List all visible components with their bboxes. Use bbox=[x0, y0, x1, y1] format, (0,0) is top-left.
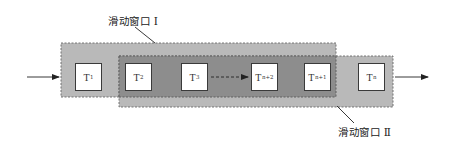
node-t3: T3 bbox=[181, 63, 208, 91]
node-t2-base: T bbox=[133, 72, 139, 83]
node-tn-plus-2: Tn+2 bbox=[251, 63, 278, 91]
window-2-leader-line bbox=[337, 106, 354, 123]
node-t3-base: T bbox=[189, 72, 195, 83]
window-1-label: 滑动窗口 Ⅰ bbox=[108, 13, 159, 28]
node-t2-sub: 2 bbox=[140, 74, 144, 80]
node-tn-plus-1-sub: n+1 bbox=[315, 74, 327, 80]
node-tn-plus-2-base: T bbox=[255, 72, 261, 83]
node-t3-sub: 3 bbox=[196, 74, 200, 80]
window-1-leader-line bbox=[135, 27, 155, 43]
node-t2: T2 bbox=[125, 63, 152, 91]
node-t1-sub: 1 bbox=[90, 74, 94, 80]
node-t1-base: T bbox=[83, 72, 89, 83]
node-tn-plus-1-base: T bbox=[308, 72, 314, 83]
node-tn-plus-1: Tn+1 bbox=[304, 63, 331, 91]
node-t1: T1 bbox=[75, 63, 102, 91]
window-2-label: 滑动窗口 Ⅱ bbox=[338, 124, 391, 139]
node-tn: Tn bbox=[358, 63, 385, 91]
node-tn-sub: n bbox=[373, 74, 377, 80]
node-tn-plus-2-sub: n+2 bbox=[262, 74, 274, 80]
node-tn-base: T bbox=[366, 72, 372, 83]
